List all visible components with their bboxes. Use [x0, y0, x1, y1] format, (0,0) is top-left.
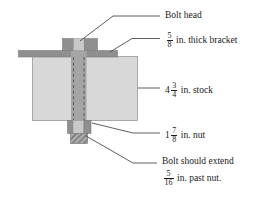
nut-left-flange [68, 121, 74, 134]
label-nut: 1 7 8 in. nut [165, 127, 205, 145]
label-nut-text: in. nut [181, 131, 205, 141]
nut-center [73, 121, 84, 134]
label-extension-line1: Bolt should extend [162, 157, 234, 167]
fraction-numerator: 5 [167, 32, 173, 40]
label-stock: 4 3 4 in. stock [165, 82, 213, 100]
leader-line-extension [86, 136, 157, 163]
label-bolt-head-text: Bolt head [165, 11, 202, 21]
label-bracket-text: in. thick bracket [176, 36, 237, 46]
label-extension: Bolt should extend 5 16 in. past nut. [162, 157, 234, 187]
bolt-head-left-flange [63, 39, 74, 51]
label-bolt-head: Bolt head [165, 11, 202, 21]
bolt-head-right-flange [85, 39, 98, 51]
fraction-five-sixteenths: 5 16 [164, 170, 174, 188]
fraction-denominator: 8 [167, 40, 173, 49]
diagram-canvas: Bolt head 5 8 in. thick bracket 4 3 4 in… [0, 0, 255, 203]
leader-line-nut [92, 123, 160, 133]
bolt-head-center [74, 39, 85, 51]
fraction-numerator: 3 [171, 82, 177, 90]
leader-line-bracket [110, 39, 160, 53]
fraction-denominator: 16 [164, 178, 174, 187]
fraction-five-eighths: 5 8 [167, 32, 173, 50]
bracket-bar [19, 51, 118, 58]
bolt-extension [71, 134, 88, 144]
label-extension-line2: in. past nut. [177, 174, 221, 184]
leader-line-bolt-head [80, 16, 160, 41]
label-extension-line2-row: 5 16 in. past nut. [162, 170, 221, 188]
label-stock-text: in. stock [181, 86, 213, 96]
label-nut-whole: 1 [165, 131, 170, 141]
fraction-three-quarters: 3 4 [171, 82, 177, 100]
fraction-seven-eighths: 7 8 [171, 127, 177, 145]
fraction-numerator: 7 [171, 127, 177, 135]
label-stock-whole: 4 [165, 86, 170, 96]
fraction-denominator: 8 [171, 135, 177, 144]
nut-right-flange [84, 121, 91, 134]
fraction-numerator: 5 [166, 170, 172, 178]
label-bracket: 5 8 in. thick bracket [165, 32, 237, 50]
fraction-denominator: 4 [171, 90, 177, 99]
